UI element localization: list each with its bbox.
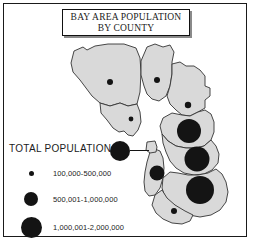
legend-label-medium: 500,001-1,000,000 [53,195,118,204]
map-title-line1: BAY AREA POPULATION [71,12,182,23]
county-sonoma [71,44,141,106]
map-figure: BAY AREA POPULATION BY COUNTY TOTAL POPU… [0,0,254,244]
legend-circle-icon-large [21,217,42,238]
symbol-santa-cruz [171,208,177,214]
legend-swatch-cell-large [9,217,53,238]
symbol-napa [154,77,160,83]
legend: TOTAL POPULATION 100,000-500,000 500,001… [9,143,159,242]
symbol-sonoma [107,79,113,85]
legend-heading: TOTAL POPULATION [9,143,159,154]
map-title-line2: BY COUNTY [98,23,155,34]
symbol-santa-clara [186,176,214,204]
legend-swatch-cell-small [9,171,53,176]
legend-item-medium: 500,001-1,000,000 [9,186,159,212]
legend-item-small: 100,000-500,000 [9,160,159,186]
legend-item-large: 1,000,001-2,000,000 [9,212,159,242]
county-marin [100,103,141,136]
map-title-box: BAY AREA POPULATION BY COUNTY [62,9,190,36]
legend-label-small: 100,000-500,000 [53,169,111,178]
symbol-solano [185,102,191,108]
legend-circle-icon-small [29,171,34,176]
symbol-contra-costa [177,119,201,143]
legend-label-large: 1,000,001-2,000,000 [53,223,124,232]
legend-swatch-cell-medium [9,192,53,206]
legend-circle-icon-medium [24,192,38,206]
symbol-alameda [185,147,210,172]
symbol-marin [129,117,134,122]
